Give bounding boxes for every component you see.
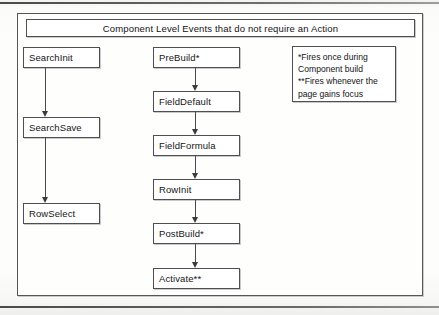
legend-line-2: Component build — [298, 63, 395, 75]
node-searchinit[interactable]: SearchInit — [23, 47, 100, 68]
connector-line — [195, 244, 196, 262]
node-label: RowSelect — [24, 209, 75, 219]
page-rule-bottom — [0, 306, 439, 308]
arrowhead-icon — [192, 262, 198, 268]
node-label: FieldDefault — [154, 97, 211, 107]
page-rule-top — [0, 2, 439, 4]
arrowhead-icon — [42, 111, 48, 117]
scanned-page: Component Level Events that do not requi… — [0, 0, 439, 315]
arrowhead-icon — [192, 217, 198, 223]
node-label: PostBuild* — [154, 229, 204, 239]
arrowhead-icon — [192, 85, 198, 91]
arrowhead-icon — [192, 129, 198, 135]
node-label: SearchSave — [24, 123, 82, 133]
legend-line-4: page gains focus — [298, 88, 395, 100]
node-prebuild[interactable]: PreBuild* — [153, 47, 240, 68]
node-searchsave[interactable]: SearchSave — [23, 117, 100, 138]
node-postbuild[interactable]: PostBuild* — [153, 223, 240, 244]
diagram-title-text: Component Level Events that do not requi… — [103, 23, 338, 34]
node-label: SearchInit — [24, 53, 73, 63]
arrowhead-icon — [192, 173, 198, 179]
node-rowinit[interactable]: RowInit — [153, 179, 240, 200]
node-activate[interactable]: Activate** — [153, 268, 240, 289]
connector-line — [195, 68, 196, 85]
legend-line-3: **Fires whenever the — [298, 75, 395, 87]
node-label: Activate** — [154, 274, 201, 284]
node-label: RowInit — [154, 185, 191, 195]
connector-line — [45, 138, 46, 197]
node-rowselect[interactable]: RowSelect — [23, 203, 100, 224]
connector-line — [195, 200, 196, 217]
node-label: FieldFormula — [154, 141, 216, 151]
connector-line — [195, 112, 196, 129]
node-fielddefault[interactable]: FieldDefault — [153, 91, 240, 112]
diagram-title-banner: Component Level Events that do not requi… — [26, 19, 415, 37]
connector-line — [45, 68, 46, 111]
legend-line-1: *Fires once during — [298, 51, 395, 63]
node-label: PreBuild* — [154, 53, 200, 63]
arrowhead-icon — [42, 197, 48, 203]
connector-line — [195, 156, 196, 173]
node-fieldformula[interactable]: FieldFormula — [153, 135, 240, 156]
legend-footnote-box: *Fires once during Component build **Fir… — [292, 46, 396, 102]
